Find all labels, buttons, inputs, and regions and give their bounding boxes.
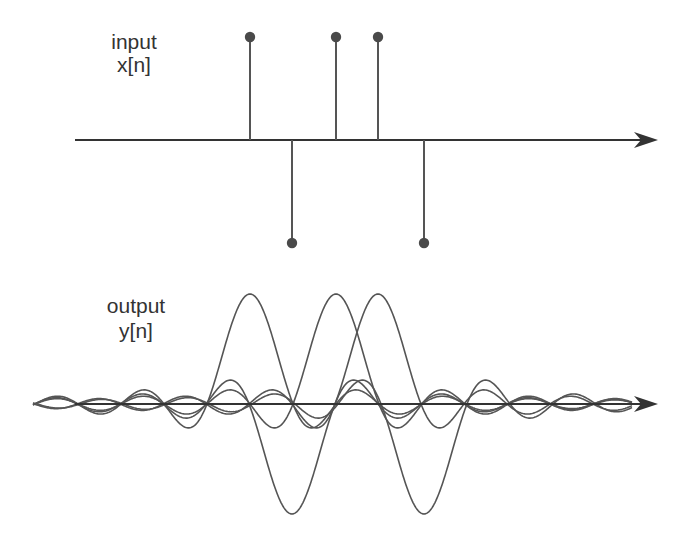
stem-dot xyxy=(419,238,429,248)
stem-dot xyxy=(373,32,383,42)
input-label-symbol: x[n] xyxy=(96,55,172,75)
input-label-word: input xyxy=(96,32,172,52)
output-label-word: output xyxy=(92,296,180,316)
stem-dot xyxy=(287,238,297,248)
output-label: output y[n] xyxy=(92,296,180,341)
stem-dot xyxy=(331,32,341,42)
signal-diagram xyxy=(0,0,691,542)
output-label-symbol: y[n] xyxy=(92,321,180,341)
input-label: input x[n] xyxy=(96,32,172,75)
stem-dot xyxy=(245,32,255,42)
